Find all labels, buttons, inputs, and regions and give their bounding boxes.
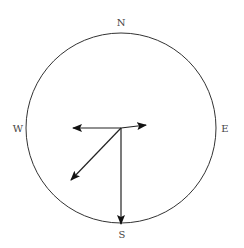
north-label: N	[117, 17, 126, 28]
west-label: W	[13, 123, 24, 134]
east-vector-arrow	[121, 125, 146, 128]
southwest-vector-arrow	[71, 128, 121, 180]
compass-diagram: N S W E	[0, 0, 244, 248]
east-label: E	[221, 123, 228, 134]
south-label: S	[119, 229, 126, 240]
